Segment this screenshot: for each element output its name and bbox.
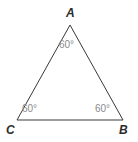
- angle-label-c: 60°: [22, 104, 37, 114]
- triangle-shape: [0, 0, 138, 142]
- vertex-label-a: A: [66, 7, 75, 19]
- geometry-diagram: A B C 60° 60° 60°: [0, 0, 138, 142]
- vertex-label-c: C: [6, 124, 15, 136]
- vertex-label-b: B: [119, 124, 128, 136]
- angle-label-a: 60°: [59, 40, 74, 50]
- angle-label-b: 60°: [95, 104, 110, 114]
